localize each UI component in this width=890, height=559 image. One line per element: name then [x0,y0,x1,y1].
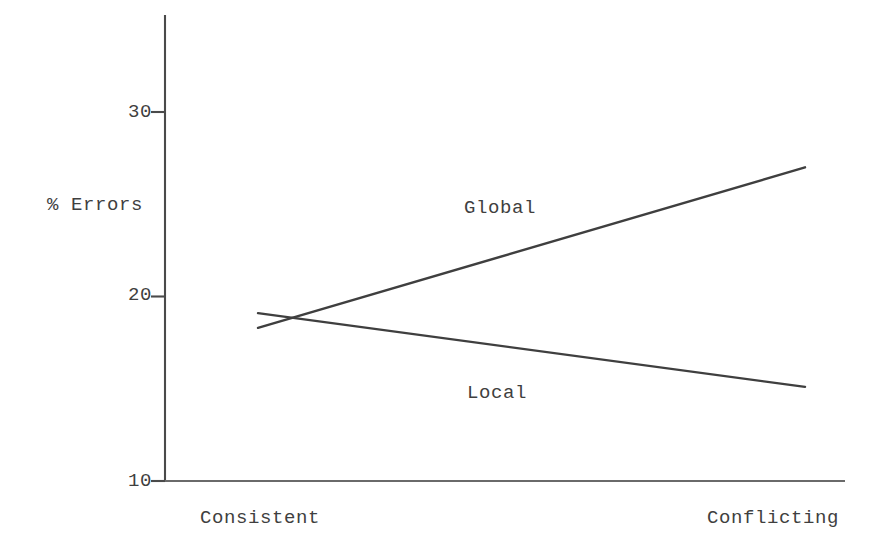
series-label-local: Local [467,384,527,403]
series-label-global: Global [464,199,536,218]
x-tick-label-conflicting: Conflicting [707,509,839,528]
y-axis-label: % Errors [47,196,143,215]
x-tick-label-consistent: Consistent [200,509,320,528]
series-line-local [258,313,805,387]
y-tick-label-30: 30 [92,103,152,122]
y-tick-label-10: 10 [92,472,152,491]
y-tick-label-20: 20 [92,286,152,305]
line-chart-figure: % Errors 30 20 10 Consistent Conflicting… [0,0,890,559]
series-line-global [258,167,805,328]
